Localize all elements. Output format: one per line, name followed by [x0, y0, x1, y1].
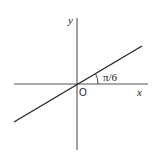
y-axis-label: y — [67, 14, 73, 26]
angle-arc — [96, 74, 99, 85]
angle-label: π/6 — [103, 71, 118, 83]
coordinate-diagram: y x O π/6 — [0, 0, 154, 164]
x-axis-label: x — [136, 86, 142, 98]
origin-label: O — [79, 87, 87, 98]
